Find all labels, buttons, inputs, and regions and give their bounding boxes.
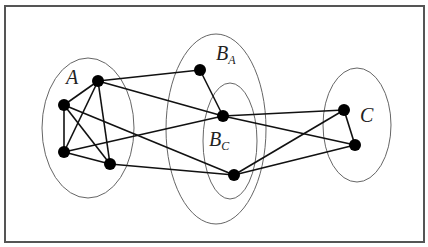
edge-a1-bc1 xyxy=(98,81,223,116)
set-label-ba: BA xyxy=(216,42,236,67)
edge-bc1-c1 xyxy=(223,110,344,116)
node-bc2 xyxy=(228,169,240,181)
edge-a3-bc1 xyxy=(64,116,223,152)
node-bc1 xyxy=(217,110,229,122)
edge-a3-a4 xyxy=(64,152,110,164)
set-ellipse-c xyxy=(323,68,391,182)
node-a3 xyxy=(58,146,70,158)
node-a1 xyxy=(92,75,104,87)
node-a4 xyxy=(104,158,116,170)
set-label-bc: BC xyxy=(209,128,230,153)
node-c2 xyxy=(349,139,361,151)
node-c1 xyxy=(338,104,350,116)
node-ba xyxy=(194,64,206,76)
edge-ba-bc1 xyxy=(200,70,223,116)
set-label-a: A xyxy=(64,66,79,88)
edge-bc2-c1 xyxy=(234,110,344,175)
node-a2 xyxy=(58,99,70,111)
edge-bc1-c2 xyxy=(223,116,355,145)
set-label-c: C xyxy=(360,104,374,126)
edge-a1-ba xyxy=(98,70,200,81)
set-graph-diagram: ABABCC xyxy=(0,0,428,247)
